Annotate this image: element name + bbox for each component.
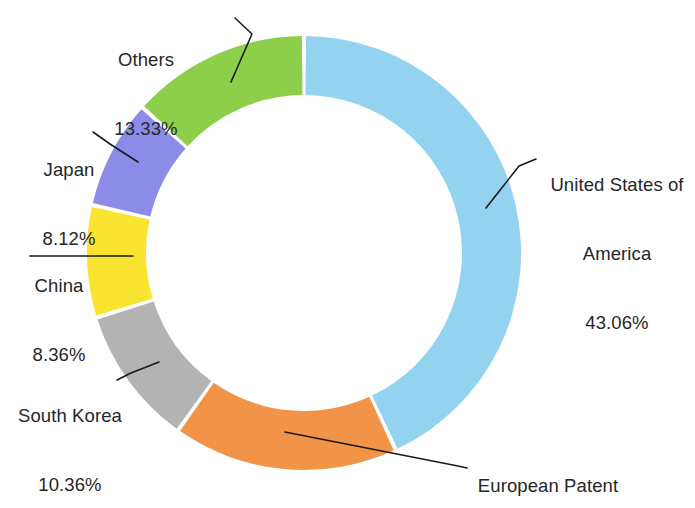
slice-label-south-korea-name: South Korea bbox=[0, 404, 148, 427]
slice-label-others-name: Others bbox=[56, 48, 236, 71]
slice-label-south-korea: South Korea 10.36% bbox=[0, 358, 148, 508]
slice-label-usa-value: 43.06% bbox=[537, 311, 695, 334]
slice-label-european-patent-office: European Patent Office 16.77% bbox=[452, 428, 644, 508]
donut-slice-united-states-of-america[interactable] bbox=[306, 36, 521, 449]
slice-label-china-name: China bbox=[0, 274, 134, 297]
slice-label-epo-name-line1: European Patent bbox=[452, 474, 644, 497]
slice-label-japan-name: Japan bbox=[0, 158, 144, 181]
donut-chart: Others 13.33% Japan 8.12% China 8.36% So… bbox=[0, 0, 695, 508]
slice-label-usa-name-line2: America bbox=[537, 242, 695, 265]
slice-label-south-korea-value: 10.36% bbox=[0, 473, 148, 496]
slice-label-usa-name-line1: United States of bbox=[537, 173, 695, 196]
slice-label-united-states-of-america: United States of America 43.06% bbox=[537, 127, 695, 380]
donut-slice-european-patent-office[interactable] bbox=[180, 383, 394, 470]
